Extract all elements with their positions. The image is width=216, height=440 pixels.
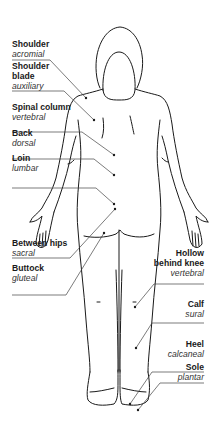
label-latin: acromial	[12, 49, 49, 59]
label-buttock: Buttock gluteal	[12, 263, 44, 283]
label-latin: sacral	[12, 248, 67, 258]
label-hollow-behind-knee: Hollow behind knee vertebral	[154, 248, 204, 278]
label-sole: Sole plantar	[178, 362, 204, 382]
right-torso-side	[148, 120, 161, 372]
label-shoulder-blade: Shoulder blade auxiliary	[12, 61, 49, 91]
neck-outline	[103, 52, 135, 100]
label-term: behind knee	[154, 258, 204, 268]
label-shoulder: Shoulder acromial	[12, 39, 49, 59]
label-latin: sural	[185, 309, 204, 319]
label-term: Loin	[12, 153, 38, 163]
label-latin: dorsal	[12, 138, 35, 148]
label-term: Shoulder	[12, 61, 49, 71]
right-foot	[120, 370, 150, 405]
label-term: Calf	[185, 299, 204, 309]
left-torso-side	[77, 120, 90, 372]
label-term: Hollow	[154, 248, 204, 258]
label-calf: Calf sural	[185, 299, 204, 319]
label-term: Heel	[168, 339, 204, 349]
label-term: Shoulder	[12, 39, 49, 49]
label-term: Back	[12, 128, 35, 138]
label-latin: calcaneal	[168, 349, 204, 359]
label-term: Sole	[178, 362, 204, 372]
label-latin: vertebral	[154, 268, 204, 278]
leader-sole	[138, 383, 204, 410]
label-term: Between hips	[12, 238, 67, 248]
leader-loin	[12, 188, 114, 204]
label-latin: gluteal	[12, 273, 44, 283]
label-heel: Heel calcaneal	[168, 339, 204, 359]
label-term: Buttock	[12, 263, 44, 273]
point-markers	[85, 97, 139, 411]
label-latin: vertebral	[12, 112, 71, 122]
label-back: Back dorsal	[12, 128, 35, 148]
left-foot	[87, 370, 118, 405]
label-latin: lumbar	[12, 163, 38, 173]
label-loin: Loin lumbar	[12, 153, 38, 173]
right-shoulder-torso	[135, 89, 208, 222]
label-term: Spinal column	[12, 102, 71, 112]
label-latin: plantar	[178, 372, 204, 382]
label-between-hips: Between hips sacral	[12, 238, 67, 258]
anatomy-diagram: Shoulder acromial Shoulder blade auxilia…	[0, 0, 216, 440]
label-latin: auxiliary	[12, 81, 49, 91]
label-spinal-column: Spinal column vertebral	[12, 102, 71, 122]
label-term: blade	[12, 71, 49, 81]
